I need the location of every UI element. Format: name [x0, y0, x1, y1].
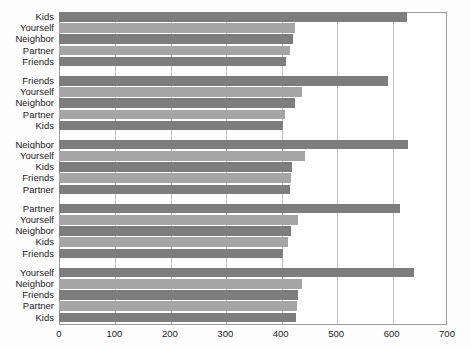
- x-tick-label-700: 700: [439, 328, 455, 339]
- bar-group-1-yourself[interactable]: [59, 23, 295, 33]
- bar-group-4-partner[interactable]: [59, 204, 400, 214]
- y-label-group-4-neighbor: Neighbor: [0, 226, 57, 236]
- bar-row: [59, 151, 447, 161]
- y-label-group-3-friends: Friends: [0, 173, 57, 183]
- bar-row: [59, 121, 447, 131]
- y-label-group-1-neighbor: Neighbor: [0, 34, 57, 44]
- bar-row: [59, 110, 447, 120]
- bar-row: [59, 185, 447, 195]
- y-label-group-1-partner: Partner: [0, 46, 57, 56]
- bar-group-3-partner[interactable]: [59, 185, 290, 195]
- y-label-group-2-neighbor: Neighbor: [0, 98, 57, 108]
- y-label-group-3-partner: Partner: [0, 185, 57, 195]
- group-separator-label-spacer: [0, 132, 57, 140]
- bar-group-2-kids[interactable]: [59, 121, 283, 131]
- y-label-group-1-kids: Kids: [0, 12, 57, 22]
- bar-group-5-kids[interactable]: [59, 313, 296, 323]
- bar-group-2-yourself[interactable]: [59, 87, 302, 97]
- x-tick-label-200: 200: [162, 328, 178, 339]
- y-label-group-4-yourself: Yourself: [0, 215, 57, 225]
- bar-group-4-kids[interactable]: [59, 237, 288, 247]
- group-separator: [59, 196, 447, 204]
- y-label-group-3-kids: Kids: [0, 162, 57, 172]
- x-axis: 0100200300400500600700: [0, 325, 471, 345]
- bar-row: [59, 87, 447, 97]
- y-label-group-5-yourself: Yourself: [0, 268, 57, 278]
- bar-row: [59, 237, 447, 247]
- bar-row: [59, 249, 447, 259]
- bar-row: [59, 173, 447, 183]
- y-label-group-1-friends: Friends: [0, 57, 57, 67]
- x-tick-label-0: 0: [56, 328, 61, 339]
- bar-row: [59, 290, 447, 300]
- bar-group-5-yourself[interactable]: [59, 268, 414, 278]
- bar-group-1-partner[interactable]: [59, 46, 290, 56]
- bar-row: [59, 215, 447, 225]
- y-label-group-4-kids: Kids: [0, 237, 57, 247]
- bar-row: [59, 46, 447, 56]
- bar-group-1-kids[interactable]: [59, 12, 407, 22]
- bar-group-3-yourself[interactable]: [59, 151, 305, 161]
- bar-row: [59, 98, 447, 108]
- group-separator-label-spacer: [0, 196, 57, 204]
- y-label-group-2-partner: Partner: [0, 110, 57, 120]
- bar-row: [59, 23, 447, 33]
- bar-row: [59, 268, 447, 278]
- bar-group-3-kids[interactable]: [59, 162, 292, 172]
- x-tick-label-500: 500: [328, 328, 344, 339]
- bar-group-1-neighbor[interactable]: [59, 34, 293, 44]
- y-label-group-3-yourself: Yourself: [0, 151, 57, 161]
- x-tick-label-400: 400: [273, 328, 289, 339]
- bar-group-4-yourself[interactable]: [59, 215, 298, 225]
- x-tick-label-600: 600: [384, 328, 400, 339]
- bar-group-5-partner[interactable]: [59, 301, 297, 311]
- x-tick-label-100: 100: [106, 328, 122, 339]
- group-separator: [59, 68, 447, 76]
- bar-row: [59, 57, 447, 67]
- y-axis-category-labels: KidsYourselfNeighborPartnerFriendsFriend…: [0, 12, 57, 325]
- bar-row: [59, 226, 447, 236]
- y-label-group-3-neighbor: Neighbor: [0, 140, 57, 150]
- y-label-group-5-partner: Partner: [0, 301, 57, 311]
- y-label-group-5-neighbor: Neighbor: [0, 279, 57, 289]
- bar-group-4-neighbor[interactable]: [59, 226, 291, 236]
- bar-row: [59, 301, 447, 311]
- bar-row: [59, 204, 447, 214]
- bar-row: [59, 313, 447, 323]
- y-label-group-2-yourself: Yourself: [0, 87, 57, 97]
- bar-group-4-friends[interactable]: [59, 249, 283, 259]
- bar-group-2-friends[interactable]: [59, 76, 388, 86]
- bar-group-2-partner[interactable]: [59, 110, 285, 120]
- group-separator: [59, 132, 447, 140]
- group-separator-label-spacer: [0, 260, 57, 268]
- group-separator: [59, 260, 447, 268]
- y-label-group-5-friends: Friends: [0, 290, 57, 300]
- bars-layer: [59, 12, 447, 325]
- bar-row: [59, 279, 447, 289]
- bar-group-3-neighbor[interactable]: [59, 140, 408, 150]
- bar-row: [59, 34, 447, 44]
- y-label-group-5-kids: Kids: [0, 313, 57, 323]
- bar-group-1-friends[interactable]: [59, 57, 286, 67]
- y-label-group-2-kids: Kids: [0, 121, 57, 131]
- group-separator-label-spacer: [0, 68, 57, 76]
- bar-row: [59, 12, 447, 22]
- y-label-group-4-friends: Friends: [0, 249, 57, 259]
- bar-group-3-friends[interactable]: [59, 173, 291, 183]
- x-tick-label-300: 300: [217, 328, 233, 339]
- y-label-group-4-partner: Partner: [0, 204, 57, 214]
- bar-row: [59, 140, 447, 150]
- bar-group-2-neighbor[interactable]: [59, 98, 295, 108]
- y-label-group-2-friends: Friends: [0, 76, 57, 86]
- bar-group-5-neighbor[interactable]: [59, 279, 302, 289]
- bar-group-5-friends[interactable]: [59, 290, 298, 300]
- bar-row: [59, 76, 447, 86]
- y-label-group-1-yourself: Yourself: [0, 23, 57, 33]
- bar-row: [59, 162, 447, 172]
- bar-chart: KidsYourselfNeighborPartnerFriendsFriend…: [0, 0, 471, 348]
